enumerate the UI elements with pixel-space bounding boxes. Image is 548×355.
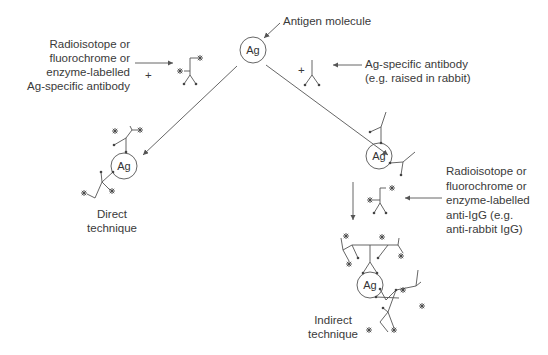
label-line: enzyme-labelled — [18, 65, 130, 79]
label-line: Indirect — [303, 313, 363, 327]
label-line: fluorochrome or — [18, 51, 130, 65]
label-line: technique — [80, 221, 144, 235]
label-line: anti-rabbit IgG) — [446, 222, 530, 237]
labelled-antibody-icon — [184, 58, 197, 84]
arrow-antigen-label — [264, 23, 280, 38]
unlabelled-ab-label: Ag-specific antibody (e.g. raised in rab… — [365, 57, 470, 85]
labelled-anti-igg-label: Radioisotope or fluorochrome or enzyme-l… — [446, 164, 530, 237]
indirect-technique-label: Indirect technique — [303, 313, 363, 341]
label-line: anti-IgG (e.g. — [446, 208, 530, 223]
antigen-label-indirect-2: Ag — [363, 279, 376, 291]
antigen-label-indirect-1: Ag — [372, 150, 385, 162]
label-line: Direct — [80, 207, 144, 221]
label-line: enzyme-labelled — [446, 193, 530, 208]
antigen-label-top: Ag — [246, 44, 259, 56]
indirect-step1-antibody-right — [390, 152, 415, 175]
labelled-anti-igg-icon — [373, 188, 386, 213]
direct-antibody-bottom — [87, 172, 113, 198]
indirect-step1-antibody-top — [370, 112, 386, 143]
labelled-ab-label: Radioisotope or fluorochrome or enzyme-l… — [18, 37, 130, 93]
label-line: Radioisotope or — [18, 37, 130, 51]
antigen-label-direct: Ag — [117, 160, 130, 172]
plus-sign-right: + — [298, 63, 305, 77]
label-line: (e.g. raised in rabbit) — [365, 71, 470, 85]
label-line: Radioisotope or — [446, 164, 530, 179]
arrow-to-direct — [143, 66, 237, 155]
plus-sign-left: + — [145, 68, 152, 82]
label-line: technique — [303, 327, 363, 341]
label-line: fluorochrome or — [446, 179, 530, 194]
direct-technique-label: Direct technique — [80, 207, 144, 235]
label-stars — [81, 55, 425, 333]
label-line: Ag-specific antibody — [18, 79, 130, 93]
antibody-icon — [305, 60, 319, 85]
label-line: Ag-specific antibody — [365, 57, 470, 71]
direct-antibody-top — [114, 126, 137, 152]
antigen-molecule-label: Antigen molecule — [283, 14, 371, 28]
